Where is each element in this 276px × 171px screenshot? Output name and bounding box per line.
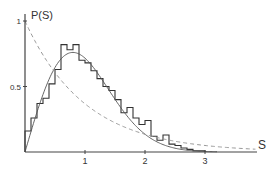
x-axis-label: S (258, 138, 266, 152)
x-tick-label: 2 (142, 156, 147, 166)
axis-ticks: 1230.51 (10, 17, 208, 166)
histogram-series (25, 45, 205, 152)
y-axis-label: P(S) (31, 9, 53, 21)
y-tick-label: 1 (17, 17, 22, 26)
x-tick-label: 3 (202, 156, 207, 166)
y-tick-label: 0.5 (10, 83, 22, 92)
x-tick-label: 1 (82, 156, 87, 166)
level-spacing-chart: 1230.51 P(S) S (0, 0, 276, 171)
plot-series (25, 21, 255, 152)
